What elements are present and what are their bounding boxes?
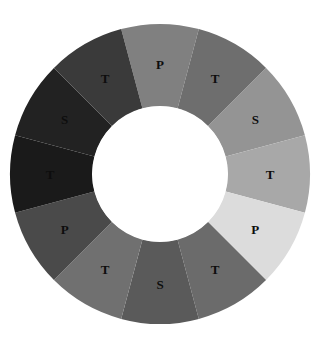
segment-label-2: S	[252, 112, 259, 127]
segment-label-7: T	[101, 262, 110, 277]
segment-label-6: S	[156, 277, 163, 292]
segment-label-10: S	[61, 112, 68, 127]
segment-label-11: T	[101, 71, 110, 86]
segment-label-4: P	[251, 222, 259, 237]
segment-label-1: T	[211, 71, 220, 86]
segment-label-0: P	[156, 57, 164, 72]
segment-label-8: P	[61, 222, 69, 237]
donut-wheel-figure: PTSTPTSTPTST	[0, 0, 321, 347]
donut-center-hole	[93, 107, 228, 242]
segment-label-9: T	[46, 167, 55, 182]
donut-wheel-svg: PTSTPTSTPTST	[0, 0, 321, 347]
segment-label-5: T	[211, 262, 220, 277]
segment-label-3: T	[266, 167, 275, 182]
